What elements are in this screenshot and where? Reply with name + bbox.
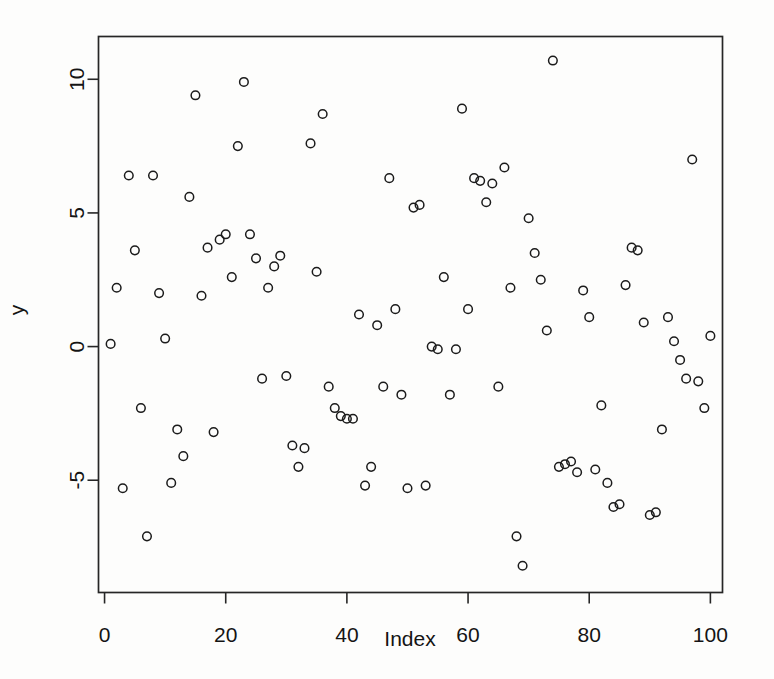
data-point [524,214,533,223]
data-point [512,532,521,541]
chart-canvas: -50510 020406080100 Index y [0,0,774,679]
x-tick-label: 80 [578,623,601,646]
y-tick-label: 0 [65,341,88,353]
data-point [361,481,370,490]
y-tick-label: 10 [65,68,88,91]
data-point [300,444,309,453]
data-point [221,230,230,239]
data-point [543,326,552,335]
data-point [682,374,691,383]
data-point [270,262,279,271]
data-point [203,243,212,252]
data-point [421,481,430,490]
data-point [143,532,152,541]
data-point [240,78,249,87]
data-point [318,110,327,119]
x-axis-ticks [105,593,711,604]
data-point [591,465,600,474]
data-point [397,390,406,399]
data-point [639,318,648,327]
data-point [191,91,200,100]
data-point [118,484,127,493]
data-point [124,171,133,180]
data-point [106,340,115,349]
data-point [312,267,321,276]
data-point [391,305,400,314]
data-point [246,230,255,239]
data-point [367,463,376,472]
data-point [694,377,703,386]
data-point [573,468,582,477]
data-point [658,425,667,434]
data-point [494,382,503,391]
data-point [112,283,121,292]
data-point [488,179,497,188]
data-point [373,321,382,330]
data-point [131,246,140,255]
data-point [324,382,333,391]
data-point [506,283,515,292]
data-point [621,281,630,290]
data-point [379,382,388,391]
data-point [500,163,509,172]
data-point [234,142,243,151]
x-tick-label: 20 [214,623,237,646]
data-point [518,561,527,570]
data-point [440,273,449,282]
data-point [161,334,170,343]
data-point [452,345,461,354]
data-point [276,251,285,260]
data-point [403,484,412,493]
data-point [167,479,176,488]
x-tick-label: 0 [99,623,111,646]
data-point [252,254,261,263]
x-tick-label: 60 [456,623,479,646]
data-point [482,198,491,207]
data-point [597,401,606,410]
data-point [458,104,467,113]
data-point [264,283,273,292]
data-point [385,174,394,183]
scatter-plot-figure: -50510 020406080100 Index y [0,0,774,679]
data-point [149,171,158,180]
data-point [464,305,473,314]
data-point [579,286,588,295]
data-point [282,372,291,381]
data-point [549,56,558,65]
x-tick-label: 40 [335,623,358,646]
y-tick-label: -5 [65,471,88,490]
y-axis-tick-labels: -50510 [65,68,88,490]
data-point [585,313,594,322]
data-point [258,374,267,383]
data-point [603,479,612,488]
data-point [530,249,539,258]
data-point [185,193,194,202]
y-axis-ticks [88,79,99,480]
data-point [706,332,715,341]
plot-frame [99,37,723,593]
data-point [446,390,455,399]
data-point [227,273,236,282]
data-point [137,404,146,413]
data-point [306,139,315,148]
data-point [355,310,364,319]
y-tick-label: 5 [65,207,88,219]
data-point [670,337,679,346]
data-points-layer [106,56,714,570]
data-point [294,463,303,472]
data-point [155,289,164,298]
data-point [173,425,182,434]
y-axis-title: y [5,304,28,315]
x-axis-title: Index [384,627,436,650]
data-point [676,356,685,365]
data-point [330,404,339,413]
data-point [209,428,218,437]
data-point [664,313,673,322]
data-point [536,275,545,284]
x-tick-label: 100 [693,623,728,646]
data-point [688,155,697,164]
data-point [349,414,358,423]
data-point [179,452,188,461]
data-point [288,441,297,450]
data-point [197,291,206,300]
